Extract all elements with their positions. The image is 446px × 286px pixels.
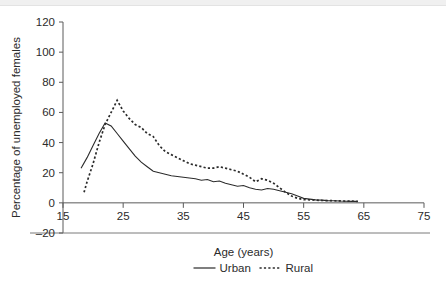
x-axis-label: Age (years) (214, 246, 274, 258)
x-tick-label: 25 (117, 210, 130, 222)
y-tick-label: 60 (42, 106, 55, 118)
chart-figure: 120100806040200–20 15253545556575 Percen… (0, 0, 446, 286)
x-tick-label: 75 (418, 210, 431, 222)
series-line-rural (84, 100, 358, 201)
y-tick-label: 0 (49, 197, 55, 209)
y-tick-label: 100 (36, 46, 55, 58)
chart-legend: Urban Rural (194, 262, 313, 274)
x-tick-label: 35 (177, 210, 190, 222)
x-tick-label: 65 (357, 210, 370, 222)
top-divider (0, 0, 446, 6)
y-tick-label: 120 (36, 16, 55, 28)
y-axis-label: Percentage of unemployed females (10, 37, 22, 218)
series-line-urban (81, 123, 358, 201)
x-tick-label: 15 (57, 210, 70, 222)
y-tick-label: 80 (42, 76, 55, 88)
legend-label-urban: Urban (220, 262, 251, 274)
y-tick-label: –20 (36, 227, 55, 239)
line-chart: 120100806040200–20 15253545556575 Percen… (0, 0, 446, 286)
legend-label-rural: Rural (286, 262, 313, 274)
x-tick-label: 45 (237, 210, 250, 222)
y-tick-label: 40 (42, 137, 55, 149)
x-axis-ticks: 15253545556575 (57, 203, 431, 222)
y-tick-label: 20 (42, 167, 55, 179)
y-axis-ticks: 120100806040200–20 (36, 16, 63, 239)
x-tick-label: 55 (297, 210, 310, 222)
